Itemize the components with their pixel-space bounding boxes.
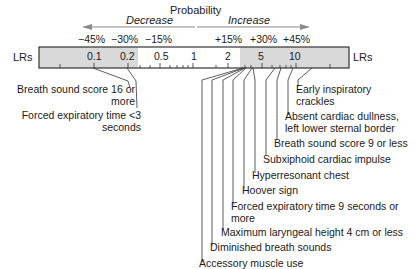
pct-plus-30: +30% [250,33,277,45]
pct-minus-45: −45% [78,33,105,45]
finding-subxiphoid-impulse: Subxiphoid cardiac impulse [263,153,391,165]
tick-0-1: 0.1 [87,50,102,62]
finding-breath-sound-9: Breath sound score 9 or less [274,137,408,149]
tick-10: 10 [289,50,301,62]
finding-max-laryngeal-height: Maximum laryngeal height 4 cm or less [221,226,403,238]
finding-early-inspiratory-crackles: Early inspiratory crackles [296,83,371,107]
finding-absent-cardiac-dullness: Absent cardiac dullness, left lower ster… [285,110,399,134]
tick-1: 1 [191,50,197,62]
lr-axis-label-left: LRs [13,51,33,63]
pct-minus-30: −30% [111,33,138,45]
increase-label: Increase [228,14,270,26]
tick-0-2: 0.2 [120,50,135,62]
finding-fet-9-or-more: Forced expiratory time 9 seconds or more [231,200,399,224]
pct-plus-15: +15% [215,33,242,45]
finding-accessory-muscle-use: Accessory muscle use [199,257,303,269]
finding-breath-sound-16: Breath sound score 16 or more [17,83,135,107]
pct-plus-45: +45% [283,33,310,45]
finding-hyperresonant-chest: Hyperresonant chest [252,169,349,181]
finding-diminished-breath-sounds: Diminished breath sounds [210,241,331,253]
lr-axis-label-right: LRs [353,51,373,63]
tick-0-5: 0.5 [154,50,169,62]
finding-hoover-sign: Hoover sign [242,184,298,196]
direction-arrows [82,24,310,30]
finding-fet-under-3: Forced expiratory time <3 seconds [22,109,141,133]
decrease-label: Decrease [126,14,173,26]
tick-5: 5 [258,50,264,62]
chart-title: Probability [170,4,221,16]
tick-2: 2 [225,50,231,62]
pct-minus-15: −15% [145,33,172,45]
